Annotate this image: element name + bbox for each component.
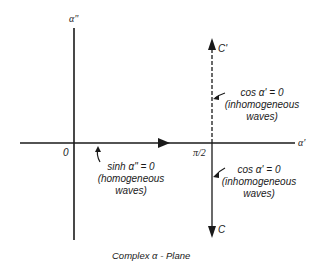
diagram-caption: Complex α - Plane bbox=[112, 250, 190, 262]
path-c-prime-label: C' bbox=[218, 43, 227, 55]
path-c-label: C bbox=[218, 224, 225, 236]
down-arrow-icon bbox=[208, 226, 216, 238]
real-path-arrow-icon bbox=[158, 138, 170, 148]
inhomogeneous-lower-annotation: cos α' = 0 (inhomogeneous waves) bbox=[214, 164, 304, 200]
leader-arrow-icon bbox=[95, 146, 101, 152]
inhomogeneous-upper-equation: cos α' = 0 bbox=[217, 87, 307, 99]
inhomogeneous-lower-line3: waves) bbox=[214, 188, 304, 200]
homogeneous-annotation: sinh α" = 0 (homogeneous waves) bbox=[88, 161, 174, 197]
inhomogeneous-upper-line2: (inhomogeneous bbox=[217, 99, 307, 111]
inhomogeneous-lower-line2: (inhomogeneous bbox=[214, 176, 304, 188]
imaginary-axis-label: α" bbox=[69, 13, 78, 25]
origin-label: 0 bbox=[63, 147, 69, 159]
pi-half-label: π/2 bbox=[193, 147, 206, 159]
homogeneous-equation: sinh α" = 0 bbox=[88, 161, 174, 173]
inhomogeneous-lower-equation: cos α' = 0 bbox=[214, 164, 304, 176]
homogeneous-line2: (homogeneous bbox=[88, 173, 174, 185]
complex-plane-diagram bbox=[0, 0, 322, 271]
up-arrow-icon bbox=[208, 38, 216, 50]
homogeneous-line3: waves) bbox=[88, 185, 174, 197]
inhomogeneous-upper-line3: waves) bbox=[217, 111, 307, 123]
real-axis-label: α' bbox=[298, 137, 305, 149]
inhomogeneous-upper-annotation: cos α' = 0 (inhomogeneous waves) bbox=[217, 87, 307, 123]
